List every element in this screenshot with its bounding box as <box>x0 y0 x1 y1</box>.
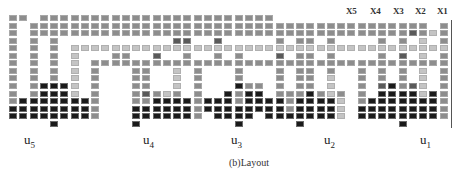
grid-cell-medium <box>235 15 243 21</box>
grid-cell-light <box>276 45 284 51</box>
grid-cell-medium <box>214 15 222 21</box>
grid-cell-black <box>19 98 27 104</box>
grid-cell-medium <box>409 60 417 66</box>
grid-cell-medium <box>214 60 222 66</box>
grid-cell-medium <box>368 30 376 36</box>
grid-cell-medium <box>419 30 427 36</box>
grid-cell-medium <box>255 83 263 89</box>
grid-cell-black <box>276 106 284 112</box>
grid-cell-medium <box>378 38 386 44</box>
grid-cell-black <box>214 106 222 112</box>
grid-cell-medium <box>440 53 448 59</box>
grid-cell-black <box>368 113 376 119</box>
grid-cell-medium <box>122 53 130 59</box>
grid-cell-black <box>163 98 171 104</box>
grid-cell-medium <box>163 23 171 29</box>
grid-cell-light <box>163 91 171 97</box>
unit-label-u3: u3 <box>231 132 242 150</box>
grid-cell-black <box>132 121 140 127</box>
grid-cell-light <box>194 45 202 51</box>
grid-cell-medium <box>265 23 273 29</box>
grid-cell-light <box>214 45 222 51</box>
grid-cell-light <box>71 83 79 89</box>
grid-cell-light <box>265 45 273 51</box>
grid-cell-medium <box>388 60 396 66</box>
grid-cell-black <box>296 121 304 127</box>
grid-cell-medium <box>142 23 150 29</box>
grid-cell-medium <box>30 91 38 97</box>
grid-cell-medium <box>71 15 79 21</box>
grid-cell-medium <box>337 91 345 97</box>
grid-cell-light <box>419 38 427 44</box>
grid-cell-medium <box>50 23 58 29</box>
grid-cell-dark <box>183 38 191 44</box>
grid-cell-black <box>153 106 161 112</box>
grid-cell-black <box>183 113 191 119</box>
grid-cell-medium <box>91 30 99 36</box>
grid-cell-black <box>296 113 304 119</box>
grid-cell-black <box>276 98 284 104</box>
grid-cell-medium <box>286 60 294 66</box>
grid-cell-medium <box>194 83 202 89</box>
grid-cell-medium <box>358 83 366 89</box>
grid-cell-black <box>399 98 407 104</box>
grid-cell-black <box>255 98 263 104</box>
grid-cell-dark <box>276 53 284 59</box>
grid-cell-medium <box>347 60 355 66</box>
grid-cell-light <box>71 68 79 74</box>
grid-cell-light <box>419 53 427 59</box>
grid-cell-medium <box>132 30 140 36</box>
grid-cell-medium <box>440 98 448 104</box>
grid-cell-black <box>235 106 243 112</box>
grid-cell-medium <box>327 23 335 29</box>
grid-cell-medium <box>122 60 130 66</box>
grid-cell-medium <box>378 53 386 59</box>
grid-cell-light <box>173 83 181 89</box>
grid-cell-medium <box>112 30 120 36</box>
grid-cell-black <box>173 113 181 119</box>
grid-cell-medium <box>30 68 38 74</box>
grid-cell-black <box>419 113 427 119</box>
grid-cell-medium <box>378 75 386 81</box>
grid-cell-medium <box>337 23 345 29</box>
grid-cell-medium <box>388 30 396 36</box>
grid-cell-medium <box>194 15 202 21</box>
grid-cell-medium <box>440 75 448 81</box>
grid-cell-medium <box>358 68 366 74</box>
grid-cell-black <box>142 106 150 112</box>
grid-cell-black <box>30 113 38 119</box>
grid-cell-light <box>419 83 427 89</box>
grid-cell-black <box>132 113 140 119</box>
grid-cell-medium <box>368 60 376 66</box>
grid-cell-black <box>173 98 181 104</box>
grid-cell-black <box>245 91 253 97</box>
grid-cell-medium <box>50 53 58 59</box>
grid-cell-black <box>409 113 417 119</box>
grid-cell-black <box>50 113 58 119</box>
grid-cell-medium <box>276 30 284 36</box>
grid-cell-black <box>265 98 273 104</box>
grid-cell-medium <box>337 30 345 36</box>
grid-cell-medium <box>306 30 314 36</box>
grid-cell-black <box>358 106 366 112</box>
grid-cell-black <box>388 106 396 112</box>
grid-cell-medium <box>296 68 304 74</box>
grid-cell-light <box>337 45 345 51</box>
grid-cell-medium <box>235 75 243 81</box>
grid-cell-medium <box>358 98 366 104</box>
grid-cell-black <box>50 98 58 104</box>
grid-cell-light <box>71 91 79 97</box>
grid-cell-black <box>19 106 27 112</box>
grid-cell-light <box>173 45 181 51</box>
grid-cell-light <box>368 45 376 51</box>
grid-cell-light <box>388 45 396 51</box>
grid-cell-black <box>214 98 222 104</box>
grid-cell-medium <box>9 68 17 74</box>
grid-cell-medium <box>255 23 263 29</box>
grid-cell-medium <box>317 30 325 36</box>
grid-cell-black <box>40 83 48 89</box>
column-label-x4: X4 <box>370 6 380 16</box>
grid-cell-black <box>419 106 427 112</box>
grid-cell-medium <box>245 83 253 89</box>
grid-cell-medium <box>132 68 140 74</box>
